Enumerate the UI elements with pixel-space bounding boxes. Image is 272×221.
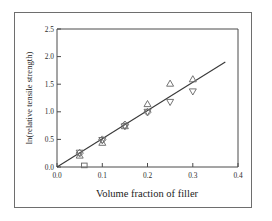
y-ticklabel-3: 1.5 bbox=[45, 80, 55, 89]
data-point bbox=[167, 99, 174, 105]
figure-container: 0.0 0.5 1.0 1.5 2.0 2.5 0.0 0.1 0.2 0.3 … bbox=[0, 0, 272, 221]
data-point bbox=[167, 80, 174, 86]
x-ticklabel-3: 0.3 bbox=[188, 171, 198, 180]
x-ticklabel-1: 0.1 bbox=[98, 171, 108, 180]
y-axis-ticks bbox=[57, 29, 61, 167]
x-ticklabel-4: 0.4 bbox=[233, 171, 243, 180]
x-axis-ticklabels: 0.0 0.1 0.2 0.3 0.4 bbox=[52, 171, 243, 180]
data-point bbox=[189, 89, 196, 95]
axes-spines bbox=[57, 29, 238, 167]
x-axis-title: Volume fraction of filler bbox=[96, 188, 199, 199]
series-triangle-up bbox=[76, 76, 196, 158]
data-point bbox=[144, 101, 151, 107]
x-ticklabel-2: 0.2 bbox=[143, 171, 153, 180]
data-point bbox=[189, 76, 196, 82]
y-ticklabel-2: 1.0 bbox=[45, 107, 55, 116]
chart-canvas: 0.0 0.5 1.0 1.5 2.0 2.5 0.0 0.1 0.2 0.3 … bbox=[0, 0, 272, 221]
y-ticklabel-5: 2.5 bbox=[45, 25, 55, 34]
y-axis-ticklabels: 0.0 0.5 1.0 1.5 2.0 2.5 bbox=[45, 25, 55, 172]
x-axis-ticks bbox=[57, 163, 238, 167]
y-ticklabel-4: 2.0 bbox=[45, 52, 55, 61]
y-ticklabel-1: 0.5 bbox=[45, 135, 55, 144]
series-triangle-down bbox=[76, 89, 196, 156]
y-axis-title: ln(relative tensile strength) bbox=[24, 52, 34, 145]
x-ticklabel-0: 0.0 bbox=[52, 171, 62, 180]
